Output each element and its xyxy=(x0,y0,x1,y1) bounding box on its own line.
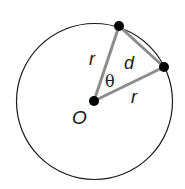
radius-1-label: r xyxy=(89,49,96,69)
right-point xyxy=(159,62,169,72)
center-point xyxy=(89,96,99,106)
angle-label: θ xyxy=(105,72,115,91)
center-label: O xyxy=(72,107,87,128)
radius-2-label: r xyxy=(131,87,138,107)
circle-chord-diagram: r d θ r O xyxy=(0,0,185,189)
chord-label: d xyxy=(124,53,135,73)
top-point xyxy=(114,21,124,31)
